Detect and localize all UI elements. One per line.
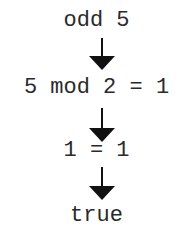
down-arrow-icon [89,167,115,200]
step-expression-4: true [0,205,193,227]
step-expression-2: 5 mod 2 = 1 [0,77,193,99]
step-expression-3: 1 = 1 [0,140,193,162]
step-expression-1: odd 5 [0,10,193,32]
down-arrow-icon [89,38,115,70]
